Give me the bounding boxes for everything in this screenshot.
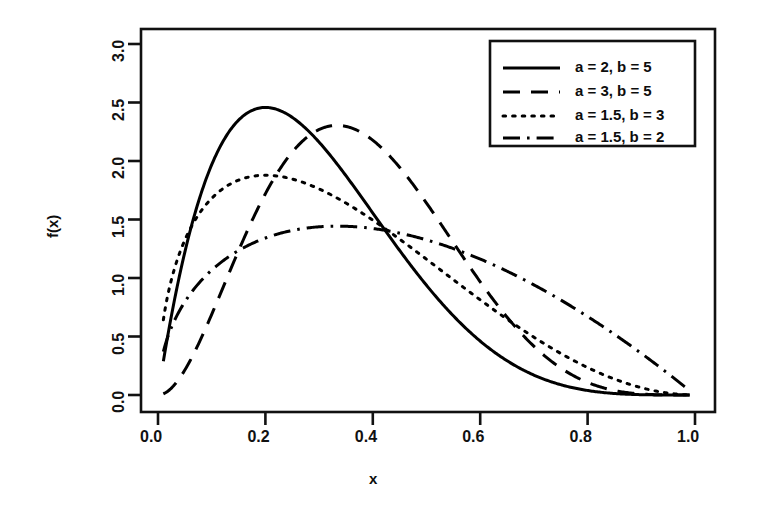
x-tick-label: 0.0 bbox=[140, 428, 162, 446]
x-tick-label: 0.8 bbox=[570, 428, 592, 446]
y-axis-title: f(x) bbox=[44, 215, 61, 238]
curve-solid bbox=[163, 107, 689, 395]
x-tick-label: 0.6 bbox=[462, 428, 484, 446]
data-curves bbox=[163, 107, 689, 395]
legend-entry-label: a = 3, b = 5 bbox=[575, 82, 652, 99]
y-tick-label: 0.5 bbox=[110, 332, 128, 354]
legend-entry-label: a = 2, b = 5 bbox=[575, 58, 652, 75]
legend-entry-label: a = 1.5, b = 2 bbox=[575, 128, 664, 145]
curve-dashdot bbox=[163, 226, 689, 391]
beta-density-plot bbox=[0, 0, 757, 517]
x-tick-label: 1.0 bbox=[677, 428, 699, 446]
y-axis-ticks bbox=[128, 44, 141, 395]
chart-figure: 0.0 0.2 0.4 0.6 0.8 1.0 0.0 0.5 1.0 1.5 … bbox=[0, 0, 757, 517]
y-tick-label: 1.5 bbox=[110, 215, 128, 237]
x-tick-label: 0.4 bbox=[355, 428, 377, 446]
y-tick-label: 0.0 bbox=[110, 391, 128, 413]
x-axis-title: x bbox=[369, 470, 378, 487]
x-axis-ticks bbox=[158, 412, 695, 425]
legend-entry-label: a = 1.5, b = 3 bbox=[575, 106, 664, 123]
x-tick-label: 0.2 bbox=[247, 428, 269, 446]
y-tick-label: 2.5 bbox=[110, 98, 128, 120]
y-tick-label: 3.0 bbox=[110, 40, 128, 62]
y-tick-label: 2.0 bbox=[110, 157, 128, 179]
y-tick-label: 1.0 bbox=[110, 274, 128, 296]
